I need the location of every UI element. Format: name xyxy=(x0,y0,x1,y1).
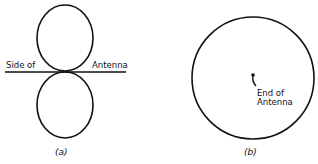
caption-b: (b) xyxy=(244,147,257,157)
upper-lobe xyxy=(37,5,93,71)
antenna-pattern-diagram: Side of Antenna (a) End of Antenna (b) xyxy=(0,0,318,164)
figure-b: End of Antenna (b) xyxy=(192,17,314,157)
leader-line xyxy=(253,76,256,86)
figure-a: Side of Antenna (a) xyxy=(5,5,128,157)
side-of-label: Side of xyxy=(6,60,36,70)
lower-lobe xyxy=(37,72,93,138)
antenna-label: Antenna xyxy=(92,60,128,70)
caption-a: (a) xyxy=(55,147,68,157)
antenna-end-label: Antenna xyxy=(257,97,293,107)
